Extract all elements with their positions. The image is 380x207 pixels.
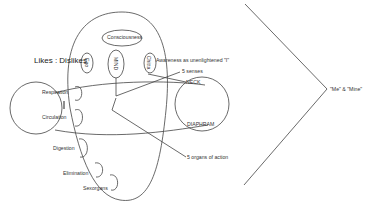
band-lower xyxy=(55,125,208,135)
diagram-canvas xyxy=(0,0,380,207)
respiration-loop xyxy=(75,86,82,100)
five-senses-label: 5 senses xyxy=(182,69,203,74)
me-mine-label: "Me" & "Mine" xyxy=(330,87,362,92)
five-organs-label: 5 organs of action xyxy=(187,155,228,160)
sexorgans-loop xyxy=(110,175,118,190)
respiration-label: Respiration xyxy=(42,90,68,95)
band-upper xyxy=(55,82,205,93)
elimination-loop xyxy=(95,163,103,177)
digestion-label: Digestion xyxy=(53,146,75,151)
neck-label: NECK xyxy=(186,80,200,85)
circulation-loop xyxy=(75,110,83,127)
likes-dislikes-label: Likes : Dislikes xyxy=(34,57,87,65)
chitta-label: Chitta xyxy=(146,56,151,70)
circulation-label: Circulation xyxy=(42,115,67,120)
consciousness-label: Consciousness xyxy=(107,35,142,40)
mind-senses-line xyxy=(116,72,180,96)
elimination-label: Elimination xyxy=(63,171,88,176)
awareness-label: Awareness as unenlightened "I" xyxy=(156,58,229,63)
sexorgans-label: Sexorgans xyxy=(83,186,108,191)
chevron xyxy=(244,4,327,185)
mind-label: MIND xyxy=(113,57,118,70)
diaphragm-label: DIAPHRAM xyxy=(187,122,214,127)
